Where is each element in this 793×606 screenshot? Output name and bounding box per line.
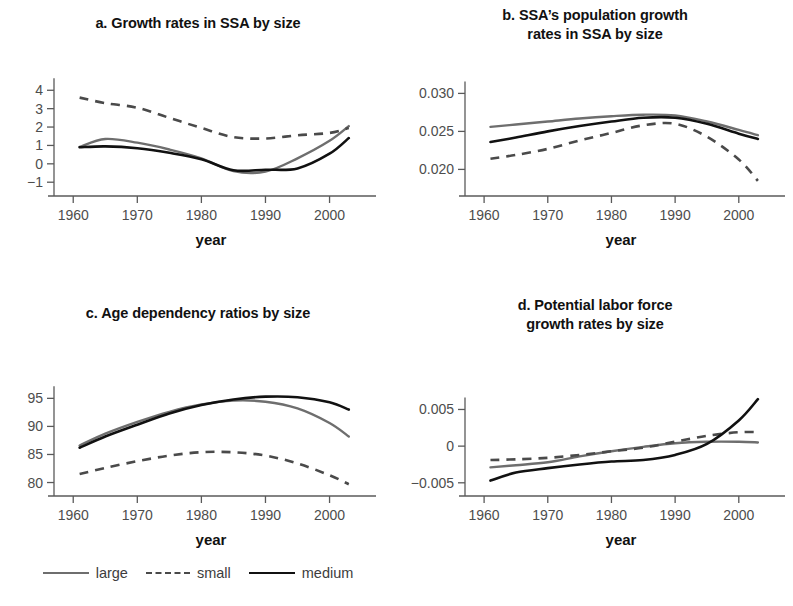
legend-item-small: small	[146, 565, 231, 581]
x-axis-title: year	[606, 231, 637, 248]
series-line-medium	[490, 399, 757, 480]
legend-line-small-icon	[146, 572, 190, 574]
figure-legend: large small medium	[0, 556, 396, 590]
x-tick-label: 1970	[122, 507, 153, 523]
legend-label-large: large	[96, 565, 128, 581]
x-tick-label: 1970	[532, 507, 563, 523]
y-tick-label: 0.025	[419, 123, 454, 139]
y-tick-label: 0.030	[419, 85, 454, 101]
panel-b-plot: 196019701980199020000.0200.0250.030year	[397, 0, 793, 290]
x-tick-label: 1960	[58, 207, 89, 223]
x-tick-label: 1990	[250, 507, 281, 523]
x-tick-label: 1970	[122, 207, 153, 223]
x-tick-label: 1980	[186, 507, 217, 523]
figure-panel-grid: a. Growth rates in SSA by size 196019701…	[0, 0, 793, 606]
series-line-small	[80, 452, 349, 484]
y-tick-label: 4	[35, 82, 43, 98]
x-axis-title: year	[606, 531, 637, 548]
chart-panel-a: a. Growth rates in SSA by size 196019701…	[0, 0, 396, 290]
panel-c-plot: 1960197019801990200080859095year	[0, 290, 396, 580]
x-tick-label: 2000	[314, 207, 345, 223]
y-tick-label: 0	[35, 156, 43, 172]
series-line-medium	[80, 138, 349, 171]
chart-panel-b: b. SSA’s population growthrates in SSA b…	[397, 0, 793, 290]
y-tick-label: 3	[35, 101, 43, 117]
x-tick-label: 1980	[596, 507, 627, 523]
y-tick-label: 90	[27, 418, 43, 434]
x-tick-label: 1970	[532, 207, 563, 223]
x-tick-label: 1960	[58, 507, 89, 523]
y-tick-label: 0.005	[419, 401, 454, 417]
cut-off-caption	[0, 598, 793, 606]
x-tick-label: 2000	[723, 207, 754, 223]
series-line-medium	[80, 396, 349, 447]
series-line-large	[80, 400, 349, 445]
legend-line-medium-icon	[249, 572, 295, 574]
y-tick-label: −1	[27, 174, 43, 190]
legend-item-large: large	[43, 565, 128, 581]
legend-line-large-icon	[43, 572, 89, 574]
x-axis-title: year	[196, 531, 227, 548]
y-tick-label: 0.020	[419, 161, 454, 177]
series-line-small	[80, 98, 349, 139]
x-tick-label: 1990	[250, 207, 281, 223]
series-line-large	[490, 442, 757, 468]
panel-a-plot: 19601970198019902000−101234year	[0, 0, 396, 290]
x-tick-label: 2000	[314, 507, 345, 523]
y-tick-label: 0	[446, 438, 454, 454]
y-tick-label: 2	[35, 119, 43, 135]
legend-label-small: small	[197, 565, 231, 581]
y-tick-label: 1	[35, 137, 43, 153]
x-tick-label: 1980	[596, 207, 627, 223]
panel-d-plot: 19601970198019902000−0.00500.005year	[397, 290, 793, 580]
x-tick-label: 1980	[186, 207, 217, 223]
series-line-small	[490, 123, 757, 181]
y-tick-label: −0.005	[411, 475, 454, 491]
y-tick-label: 85	[27, 446, 43, 462]
x-axis-title: year	[196, 231, 227, 248]
legend-label-medium: medium	[302, 565, 354, 581]
chart-panel-c: c. Age dependency ratios by size 1960197…	[0, 290, 396, 580]
y-tick-label: 95	[27, 390, 43, 406]
x-tick-label: 2000	[723, 507, 754, 523]
x-tick-label: 1960	[469, 207, 500, 223]
x-tick-label: 1960	[469, 507, 500, 523]
x-tick-label: 1990	[660, 507, 691, 523]
legend-item-medium: medium	[249, 565, 354, 581]
x-tick-label: 1990	[660, 207, 691, 223]
series-line-large	[490, 115, 757, 136]
y-tick-label: 80	[27, 475, 43, 491]
chart-panel-d: d. Potential labor forcegrowth rates by …	[397, 290, 793, 580]
